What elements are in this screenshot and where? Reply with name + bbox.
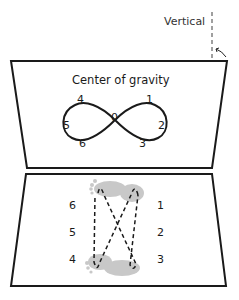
right-label-3: 3 xyxy=(157,253,164,266)
footprint-icon xyxy=(120,184,144,202)
vertical-label: Vertical xyxy=(164,15,205,28)
left-label-4: 4 xyxy=(69,253,76,266)
left-label-6: 6 xyxy=(69,199,76,212)
label-3: 3 xyxy=(139,137,146,150)
tilt-arrow-icon xyxy=(216,49,226,57)
right-label-1: 1 xyxy=(157,199,164,212)
center-of-gravity-diagram: Vertical Center of gravity 4 1 0 5 2 6 3 xyxy=(0,0,239,300)
center-of-gravity-title: Center of gravity xyxy=(72,73,170,87)
label-2: 2 xyxy=(158,119,165,132)
left-label-5: 5 xyxy=(69,226,76,239)
label-0: 0 xyxy=(111,111,118,124)
label-4: 4 xyxy=(77,93,84,106)
label-1: 1 xyxy=(146,93,153,106)
label-5: 5 xyxy=(63,119,70,132)
label-6: 6 xyxy=(79,137,86,150)
right-label-2: 2 xyxy=(157,226,164,239)
